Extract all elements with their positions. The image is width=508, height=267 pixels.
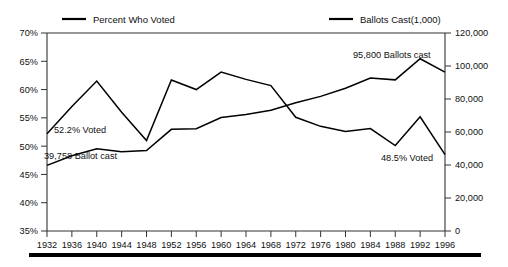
legend-label-percent-who-voted: Percent Who Voted	[93, 14, 175, 25]
line-percent-who-voted	[47, 72, 445, 155]
annotation-peak-ballots: 95,800 Ballots cast	[353, 50, 431, 60]
chart-container: Percent Who Voted Ballots Cast(1,000) 35…	[0, 0, 508, 267]
left-tick-label: 40%	[20, 198, 38, 208]
x-tick-label: 1964	[236, 240, 256, 250]
left-tick-label: 55%	[20, 113, 38, 123]
bottom-divider-rule	[29, 253, 481, 257]
annotation-start-percent: 52.2% Voted	[54, 125, 106, 135]
left-tick-label: 45%	[20, 170, 38, 180]
x-tick-label: 1940	[87, 240, 107, 250]
x-tick-label: 1956	[186, 240, 206, 250]
chart-axes	[47, 33, 445, 231]
x-tick-label: 1968	[261, 240, 281, 250]
chart-series	[47, 59, 445, 166]
dual-axis-line-chart: Percent Who Voted Ballots Cast(1,000) 35…	[0, 0, 508, 267]
x-tick-label: 1948	[136, 240, 156, 250]
x-tick-label: 1972	[286, 240, 306, 250]
left-tick-label: 35%	[20, 226, 38, 236]
legend-label-ballots-cast: Ballots Cast(1,000)	[360, 14, 441, 25]
x-tick-label: 1960	[211, 240, 231, 250]
x-tick-label: 1936	[62, 240, 82, 250]
right-tick-label: 100,000	[455, 61, 488, 71]
right-tick-label: 0	[455, 226, 460, 236]
x-tick-label: 1976	[310, 240, 330, 250]
x-tick-label: 1984	[360, 240, 380, 250]
line-ballots-cast	[47, 59, 445, 166]
chart-annotations: 52.2% Voted 39,758 Ballot cast 95,800 Ba…	[44, 50, 433, 163]
x-tick-label: 1996	[435, 240, 455, 250]
right-axis-ticks: 020,00040,00060,00080,000100,000120,000	[445, 28, 488, 236]
x-tick-label: 1980	[335, 240, 355, 250]
right-tick-label: 20,000	[455, 193, 483, 203]
left-tick-label: 50%	[20, 142, 38, 152]
x-tick-label: 1952	[161, 240, 181, 250]
x-tick-label: 1988	[385, 240, 405, 250]
left-tick-label: 70%	[20, 28, 38, 38]
annotation-end-percent: 48.5% Voted	[381, 153, 433, 163]
x-axis-ticks: 1932193619401944194819521956196019641968…	[37, 231, 455, 250]
right-tick-label: 60,000	[455, 127, 483, 137]
x-tick-label: 1944	[111, 240, 131, 250]
left-tick-label: 60%	[20, 85, 38, 95]
left-axis-ticks: 35%40%45%50%55%60%65%70%	[20, 28, 47, 236]
right-tick-label: 40,000	[455, 160, 483, 170]
annotation-start-ballots: 39,758 Ballot cast	[44, 151, 117, 161]
x-tick-label: 1932	[37, 240, 57, 250]
left-tick-label: 65%	[20, 57, 38, 67]
right-tick-label: 120,000	[455, 28, 488, 38]
x-tick-label: 1992	[410, 240, 430, 250]
right-tick-label: 80,000	[455, 94, 483, 104]
chart-legend: Percent Who Voted Ballots Cast(1,000)	[62, 14, 441, 25]
